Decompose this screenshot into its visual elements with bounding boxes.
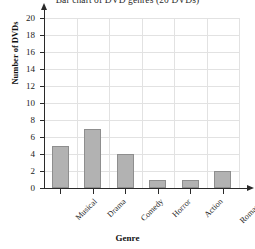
x-tick (158, 189, 159, 194)
category-label-horror: Horror (170, 197, 192, 219)
gridline-vertical (109, 18, 110, 188)
x-tick (93, 189, 94, 194)
y-tick-label: 0 (31, 184, 36, 193)
x-axis-line (44, 188, 249, 189)
category-label-action: Action (203, 197, 225, 219)
bar-romance (214, 171, 231, 188)
y-tick-label: 8 (31, 116, 36, 125)
y-tick-label: 18 (26, 31, 35, 40)
category-label-romance: Romance (238, 197, 255, 225)
bar-comedy (117, 154, 134, 188)
plot-area: 02468101214161820 MusicalDramaComedyHorr… (44, 18, 239, 188)
gridline-vertical (207, 18, 208, 188)
category-label-musical: Musical (74, 197, 99, 222)
y-tick-label: 2 (31, 167, 36, 176)
bar-musical (52, 146, 69, 189)
y-tick-label: 10 (26, 99, 35, 108)
y-tick-label: 20 (26, 14, 35, 23)
y-axis-line (44, 9, 45, 188)
x-tick (60, 189, 61, 194)
x-axis-arrow-icon (247, 185, 254, 191)
x-tick (190, 189, 191, 194)
y-tick-label: 16 (26, 48, 35, 57)
y-axis-title: Number of DVDs (10, 0, 20, 113)
gridline-vertical (239, 18, 240, 188)
y-tick-label: 12 (26, 82, 35, 91)
x-tick (125, 189, 126, 194)
bar-chart: Bar chart of DVD genres (20 DVDs) Number… (0, 0, 255, 249)
category-label-comedy: Comedy (139, 197, 165, 223)
chart-title: Bar chart of DVD genres (20 DVDs) (0, 0, 255, 5)
x-axis-title: Genre (0, 233, 255, 243)
gridline-vertical (174, 18, 175, 188)
bar-horror (149, 180, 166, 189)
y-axis-arrow-icon (41, 3, 47, 10)
bar-action (182, 180, 199, 189)
bar-drama (84, 129, 101, 189)
category-label-drama: Drama (105, 197, 127, 219)
gridline-vertical (77, 18, 78, 188)
y-tick-label: 6 (31, 133, 36, 142)
x-tick (223, 189, 224, 194)
gridline-vertical (142, 18, 143, 188)
y-tick-label: 4 (31, 150, 36, 159)
y-tick-label: 14 (26, 65, 35, 74)
